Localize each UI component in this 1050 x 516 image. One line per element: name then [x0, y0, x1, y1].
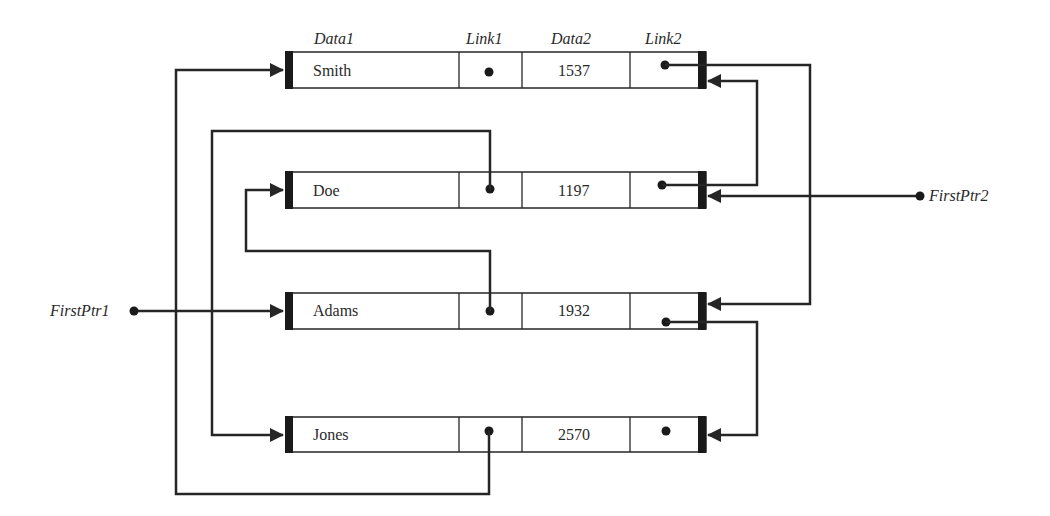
node-data1: Smith: [313, 62, 351, 79]
header-data1: Data1: [313, 30, 354, 47]
firstptr1-dot: [130, 307, 139, 316]
header-data2: Data2: [550, 30, 591, 47]
node-data2: 2570: [558, 426, 590, 443]
node-right-bar: [698, 171, 706, 209]
node-data1: Doe: [313, 182, 340, 199]
node-right-bar: [698, 416, 706, 453]
column-headers: Data1 Link1 Data2 Link2: [313, 30, 681, 47]
null-pointer-dot: [485, 68, 494, 77]
node-right-bar: [698, 51, 706, 89]
node-jones: Jones 2570: [285, 416, 706, 453]
linked-list-diagram: Data1 Link1 Data2 Link2 Smith 1537 Doe 1…: [0, 0, 1050, 516]
node-smith: Smith 1537: [285, 51, 706, 89]
node-data1: Jones: [313, 426, 349, 443]
firstptr2-dot: [916, 192, 925, 201]
node-data2: 1932: [558, 302, 590, 319]
node-data2: 1537: [558, 62, 590, 79]
null-pointer-dot: [662, 427, 671, 436]
node-data1: Adams: [313, 302, 358, 319]
node-doe: Doe 1197: [285, 171, 706, 209]
link2-arrows: [662, 65, 920, 435]
node-left-bar: [285, 292, 293, 330]
node-left-bar: [285, 416, 293, 453]
node-right-bar: [698, 292, 706, 330]
header-link1: Link1: [465, 30, 502, 47]
arrow-doe-to-smith: [662, 81, 757, 185]
node-adams: Adams 1932: [285, 292, 706, 330]
node-left-bar: [285, 51, 293, 89]
firstptr2-label: FirstPtr2: [928, 187, 989, 204]
node-data2: 1197: [558, 182, 589, 199]
header-link2: Link2: [644, 30, 681, 47]
firstptr1-label: FirstPtr1: [49, 302, 110, 319]
node-left-bar: [285, 171, 293, 209]
